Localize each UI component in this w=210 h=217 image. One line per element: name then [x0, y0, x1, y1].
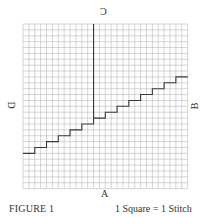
edge-label-right: B	[190, 103, 200, 110]
figure-caption: FIGURE 1	[9, 203, 54, 214]
edge-label-top: C	[100, 6, 107, 16]
grid-lines	[23, 24, 188, 189]
edge-label-bottom: A	[101, 189, 108, 199]
scale-note: 1 Square = 1 Stitch	[115, 203, 192, 214]
edge-label-left: D	[6, 101, 16, 108]
stitch-grid-diagram	[0, 0, 210, 217]
